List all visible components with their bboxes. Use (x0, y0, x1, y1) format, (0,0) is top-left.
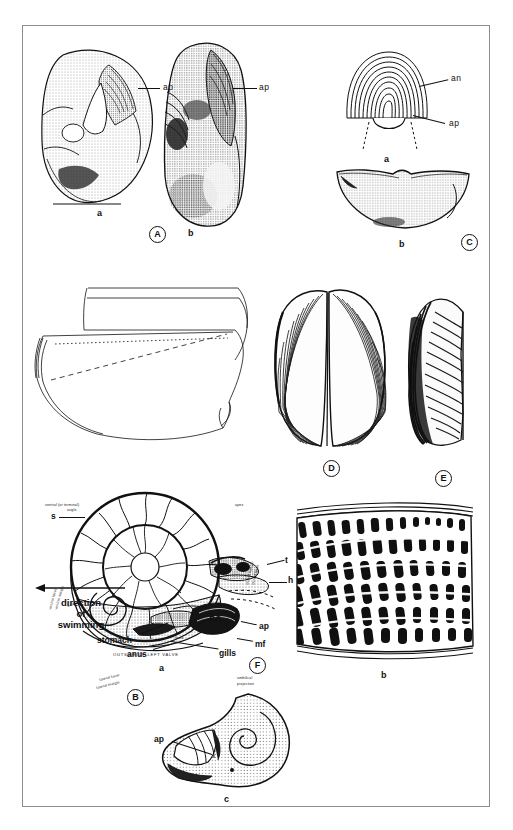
label-ap-b: ap (259, 82, 269, 92)
label-ap-f: ap (259, 621, 269, 631)
sublabel-f-c: c (224, 794, 229, 804)
sublabel-b: b (188, 228, 194, 238)
label-an: an (451, 73, 461, 83)
figure-f-group-c: ap c (128, 686, 318, 806)
label-ap-fc: ap (154, 734, 164, 744)
panel-letter-f: F (249, 657, 266, 674)
figure-e-specimen (405, 294, 481, 456)
sublabel-f-a: a (159, 663, 164, 673)
sublabel-f-b: b (381, 670, 387, 680)
figure-a-specimen-a (37, 41, 167, 221)
figure-f-anatomy (23, 481, 293, 671)
label-direction-line2: of (43, 608, 119, 619)
label-direction-line3: swimming (43, 619, 119, 630)
figure-a-specimen-b (155, 36, 260, 241)
label-t: t (285, 555, 288, 565)
label-s: s (51, 511, 56, 521)
leader-line-s (59, 517, 85, 518)
figure-c-specimen-b (333, 166, 483, 236)
leader-line-ap-b (233, 88, 257, 89)
figure-e-group: E (405, 294, 487, 474)
leader-line-h (269, 582, 287, 583)
panel-letter-c: C (461, 234, 478, 251)
panel-letter-e: E (435, 470, 452, 487)
figure-d-group: D (271, 284, 401, 474)
figure-b-group: ventral (or terminal) angle harmonic mar… (23, 264, 273, 460)
label-mf: mf (255, 639, 265, 649)
figure-f-group-b: b (291, 496, 491, 686)
label-anus: anus (127, 649, 147, 659)
panel-letter-d: D (323, 460, 340, 477)
figure-b-schematic (23, 268, 273, 448)
panel-letter-a: A (149, 226, 166, 243)
figure-f-microstructure (291, 496, 481, 668)
figure-c-specimen-a (333, 44, 453, 154)
direction-arrow-icon (35, 581, 127, 595)
figure-plate: ap a (22, 25, 490, 807)
sublabel-c-b: b (399, 239, 405, 249)
label-stomach: stomach (97, 635, 132, 645)
label-bc: BC (209, 614, 221, 624)
figure-a-group: ap a (37, 36, 257, 226)
sublabel-a: a (97, 208, 102, 218)
label-gills: gills (219, 648, 236, 658)
figure-f-group-a: direction of swimming s t h BC ap mf gil… (23, 481, 303, 681)
label-ap-c: ap (449, 118, 459, 128)
figure-d-specimen (271, 284, 401, 456)
figure-c-group: an ap a b C (333, 36, 488, 236)
sublabel-c-a: a (384, 154, 389, 164)
label-direction-line1: direction (43, 597, 119, 608)
